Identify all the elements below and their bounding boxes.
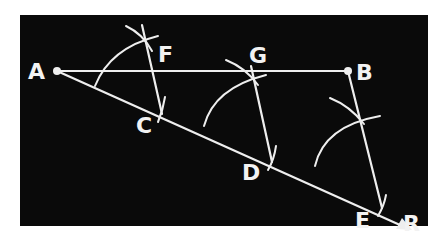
label-a: A bbox=[28, 59, 45, 84]
label-c: C bbox=[136, 113, 152, 138]
point-a bbox=[53, 67, 61, 75]
label-d: D bbox=[242, 160, 260, 185]
point-b bbox=[344, 67, 352, 75]
label-e: E bbox=[355, 208, 370, 233]
label-b: B bbox=[356, 60, 373, 85]
segment-be bbox=[348, 71, 382, 208]
label-f: F bbox=[158, 42, 173, 67]
ray-ar bbox=[57, 71, 400, 225]
label-r: R bbox=[403, 211, 420, 236]
construction-diagram: A F G B C D E R bbox=[0, 0, 444, 241]
label-g: G bbox=[249, 43, 267, 68]
